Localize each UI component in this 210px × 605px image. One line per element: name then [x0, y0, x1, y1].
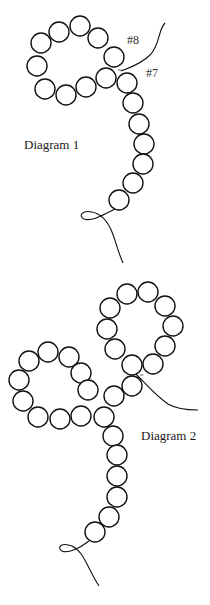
bead: [105, 339, 125, 359]
beading-diagram-canvas: ≈ ≈ #8 #7 Diagram 1 Diagram 2: [0, 0, 210, 605]
thread-tail-diagram2: [60, 541, 99, 586]
bead: [100, 298, 120, 318]
bead: [70, 16, 90, 36]
bead: [143, 354, 163, 374]
bead: [38, 342, 58, 362]
bead: [117, 73, 137, 93]
thread-tail-diagram1: [81, 209, 123, 263]
bead: [27, 56, 47, 76]
bead: [129, 114, 149, 134]
bead: [103, 426, 123, 446]
bead: [28, 407, 48, 427]
bead: [123, 173, 143, 193]
label-bead-8: #8: [127, 33, 139, 48]
bead: [107, 487, 127, 507]
bead: [134, 134, 154, 154]
diagram2-beads: [9, 282, 183, 542]
bead: [71, 406, 91, 426]
bead: [78, 380, 98, 400]
bead: [155, 336, 175, 356]
bead-diagrams: ≈ ≈: [0, 0, 210, 605]
bead: [88, 28, 108, 48]
bead: [50, 409, 70, 429]
crossing-mark-diagram2: ≈: [140, 372, 144, 378]
bead: [85, 522, 105, 542]
bead: [35, 79, 55, 99]
bead: [19, 351, 39, 371]
bead: [76, 77, 96, 97]
bead: [13, 391, 33, 411]
bead: [117, 284, 137, 304]
bead: [122, 376, 142, 396]
bead: [9, 370, 29, 390]
thread-end-diagram2: [136, 374, 198, 410]
bead: [123, 93, 143, 113]
crossing-mark-diagram1: ≈: [118, 67, 122, 73]
bead: [138, 282, 158, 302]
bead: [31, 33, 51, 53]
bead: [155, 296, 175, 316]
bead: [109, 190, 129, 210]
bead: [133, 154, 153, 174]
bead: [122, 355, 142, 375]
bead: [107, 466, 127, 486]
bead: [104, 47, 124, 67]
bead: [49, 22, 69, 42]
bead: [163, 316, 183, 336]
diagram2-title: Diagram 2: [141, 428, 196, 444]
bead: [97, 319, 117, 339]
diagram1-title: Diagram 1: [24, 137, 79, 153]
label-bead-7: #7: [146, 66, 158, 81]
bead: [96, 68, 116, 88]
bead: [104, 386, 124, 406]
bead: [107, 445, 127, 465]
bead: [56, 85, 76, 105]
bead: [94, 407, 114, 427]
